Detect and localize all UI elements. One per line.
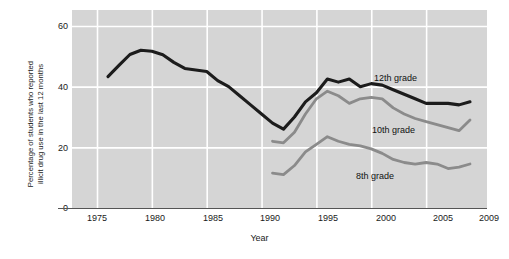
x-tick-2000: 2000 bbox=[366, 213, 406, 223]
x-tick-1995: 1995 bbox=[308, 213, 348, 223]
x-tick-2009: 2009 bbox=[469, 213, 509, 223]
series-label-12th-grade: 12th grade bbox=[374, 73, 417, 83]
x-tick-1975: 1975 bbox=[77, 213, 117, 223]
plot-background bbox=[72, 10, 487, 208]
x-tick-1985: 1985 bbox=[193, 213, 233, 223]
series-label-10th-grade: 10th grade bbox=[372, 125, 415, 135]
x-axis-label-text: Year bbox=[250, 233, 268, 243]
x-axis-label: Year bbox=[0, 233, 509, 243]
x-tick-2005: 2005 bbox=[423, 213, 463, 223]
x-tick-1990: 1990 bbox=[250, 213, 290, 223]
series-label-8th-grade: 8th grade bbox=[356, 171, 394, 181]
x-axis-ticks: 1975 1980 1985 1990 1995 2000 2005 2009 bbox=[0, 213, 509, 227]
x-tick-1980: 1980 bbox=[135, 213, 175, 223]
chart-figure: Percentage of students who reported illi… bbox=[0, 0, 509, 259]
